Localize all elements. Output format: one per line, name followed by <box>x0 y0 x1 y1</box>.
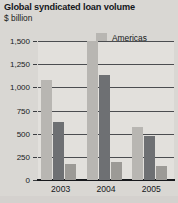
bar-emea-2004 <box>99 75 110 180</box>
chart-subtitle: $ billion <box>4 13 176 23</box>
gridline <box>38 41 174 42</box>
y-axis-label: 250 <box>17 152 30 161</box>
page-edge-artifact <box>0 196 178 203</box>
x-axis-label-2003: 2003 <box>38 184 83 194</box>
y-axis-label: 750 <box>17 106 30 115</box>
y-axis-label: 1,250 <box>10 60 30 69</box>
chart-title-block: Global syndicated loan volume $ billion <box>4 2 176 23</box>
plot-area: 02505007501,0001,2501,500 <box>38 41 174 181</box>
y-axis-label: 1,500 <box>10 37 30 46</box>
bar-emea-2003 <box>53 122 64 180</box>
bar-asia-pacific-2005 <box>156 166 167 180</box>
y-axis-tick <box>33 180 37 181</box>
y-axis-label: 500 <box>17 129 30 138</box>
y-axis-tick <box>33 111 37 112</box>
gridline <box>38 64 174 65</box>
bar-asia-pacific-2003 <box>65 164 76 180</box>
y-axis-tick <box>33 157 37 158</box>
bar-americas-2005 <box>132 127 143 180</box>
y-axis-label: 1,000 <box>10 83 30 92</box>
y-axis-tick <box>33 134 37 135</box>
bar-emea-2005 <box>144 136 155 180</box>
bar-asia-pacific-2004 <box>111 162 122 180</box>
bar-americas-2003 <box>41 80 52 180</box>
y-axis-tick <box>33 64 37 65</box>
bar-americas-2004 <box>87 41 98 180</box>
y-axis-tick <box>33 41 37 42</box>
y-axis-label: 0 <box>26 176 30 185</box>
chart-title: Global syndicated loan volume <box>4 2 176 13</box>
chart-figure: Global syndicated loan volume $ billion … <box>0 0 178 203</box>
x-axis-label-2005: 2005 <box>129 184 174 194</box>
x-axis-label-2004: 2004 <box>83 184 128 194</box>
y-axis-tick <box>33 87 37 88</box>
